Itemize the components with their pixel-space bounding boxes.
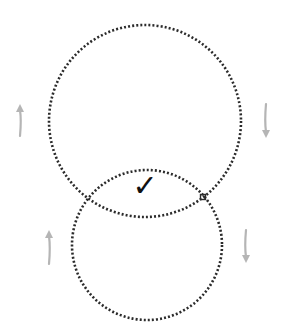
upper-right-arrow-icon (262, 104, 270, 138)
diagram-canvas: ✓ (0, 0, 284, 334)
upper-left-arrow-icon (16, 104, 24, 136)
diagram-svg: ✓ (0, 0, 284, 334)
lower-right-arrow-icon (242, 230, 250, 263)
checkmark-icon: ✓ (132, 168, 157, 203)
lower-left-arrow-icon (45, 230, 53, 264)
